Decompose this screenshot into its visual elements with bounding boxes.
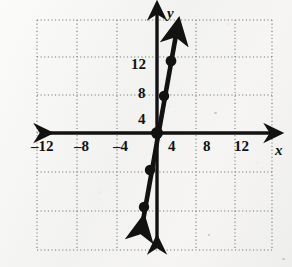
data-point bbox=[166, 56, 177, 67]
data-point bbox=[151, 127, 163, 139]
y-tick-label-12: 12 bbox=[131, 57, 146, 72]
x-tick-label--8: –8 bbox=[74, 139, 89, 154]
y-tick-label-8: 8 bbox=[138, 86, 146, 101]
scan-speck bbox=[214, 112, 217, 114]
x-tick-label--12: –12 bbox=[31, 139, 54, 154]
data-point bbox=[159, 91, 169, 101]
data-point bbox=[145, 165, 155, 175]
y-axis-label: y bbox=[167, 6, 174, 21]
x-tick-label-8: 8 bbox=[203, 139, 211, 154]
x-tick-label-12: 12 bbox=[234, 139, 249, 154]
x-tick-label-4: 4 bbox=[168, 139, 176, 154]
scan-speck bbox=[282, 258, 285, 260]
coordinate-plane bbox=[0, 0, 292, 267]
scan-speck bbox=[208, 234, 210, 236]
data-point bbox=[139, 202, 149, 212]
x-axis-label: x bbox=[275, 143, 283, 158]
y-tick-label-4: 4 bbox=[138, 112, 146, 127]
x-tick-label--4: –4 bbox=[113, 139, 128, 154]
